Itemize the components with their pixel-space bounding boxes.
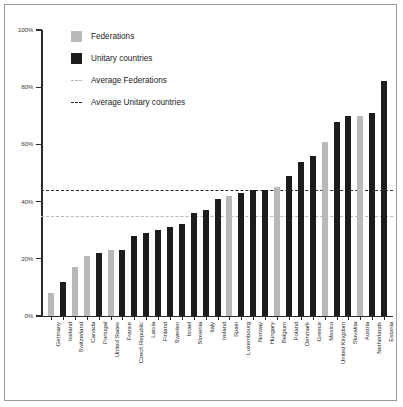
bar-canada (84, 256, 90, 316)
bar-germany (48, 293, 54, 316)
bar-united-kingdom (334, 122, 340, 316)
bar-ireland (215, 199, 221, 316)
x-axis-label: Spain (232, 322, 239, 337)
x-axis-label: Slovakia (351, 322, 358, 344)
bar-latvia (143, 233, 149, 316)
bar-czech-republic (131, 236, 137, 316)
legend-label-unitary-countries: Unitary countries (91, 54, 152, 63)
x-axis-label: Germany (54, 322, 61, 346)
x-axis-label: Israel (185, 322, 192, 336)
bar-estonia (381, 81, 387, 316)
x-axis-tick (384, 316, 385, 320)
x-axis-label: Canada (89, 322, 96, 343)
bar-norway (250, 190, 256, 316)
legend-item-average-federations: Average Federations (71, 69, 185, 91)
x-axis-label: Latvia (149, 322, 156, 338)
x-axis-label: France (125, 322, 132, 340)
x-axis-tick (360, 316, 361, 320)
legend-item-average-unitary: Average Unitary countries (71, 91, 185, 113)
bar-hungary (262, 190, 268, 316)
swatch-unitary-icon (71, 53, 82, 64)
bar-iceland (60, 282, 66, 316)
bar-poland (286, 176, 292, 316)
x-axis-label: United States (113, 322, 120, 357)
x-axis-tick (134, 316, 135, 320)
x-axis-label: Norway (256, 322, 263, 342)
y-axis-tick (36, 144, 42, 145)
x-axis-tick (51, 316, 52, 320)
bar-united-states (108, 250, 114, 316)
x-axis-tick (301, 316, 302, 320)
x-axis-tick (122, 316, 123, 320)
y-axis-tick (36, 258, 42, 259)
average-line (41, 190, 393, 191)
x-axis-label: Estonia (387, 322, 394, 342)
x-axis-label: Slovenia (196, 322, 203, 345)
bar-slovenia (191, 213, 197, 316)
y-axis-tick (36, 315, 42, 316)
x-axis-label: Denmark (303, 322, 310, 346)
bar-sweden (167, 227, 173, 316)
x-axis-tick (313, 316, 314, 320)
x-axis-label: Czech Republic (137, 322, 144, 363)
y-axis-label: 20% (5, 255, 33, 262)
x-axis-tick (158, 316, 159, 320)
x-axis-tick (218, 316, 219, 320)
bar-france (119, 250, 125, 316)
y-axis-label: 80% (5, 83, 33, 90)
x-axis-tick (75, 316, 76, 320)
x-axis-tick (253, 316, 254, 320)
x-axis-tick (241, 316, 242, 320)
x-axis-tick (289, 316, 290, 320)
y-axis-label: 40% (5, 198, 33, 205)
bar-slovakia (345, 116, 351, 316)
bar-finland (155, 230, 161, 316)
x-axis-label: Portugal (101, 322, 108, 344)
dashed-line-federations-icon (71, 80, 82, 81)
bar-greece (310, 156, 316, 316)
x-axis-label: Belgium (280, 322, 287, 343)
y-axis-label: 100% (5, 26, 33, 33)
x-axis-tick (146, 316, 147, 320)
bar-netherlands (369, 113, 375, 316)
x-axis-label: Italy (208, 322, 215, 333)
x-axis-label: Ireland (220, 322, 227, 340)
y-axis-label: 60% (5, 140, 33, 147)
x-axis-label: Netherlands (375, 322, 382, 354)
bar-belgium (274, 187, 280, 316)
x-axis-label: Finland (161, 322, 168, 341)
x-axis-label: United Kingdom (339, 322, 346, 364)
legend-item-federations: Federations (71, 25, 185, 47)
x-axis-tick (348, 316, 349, 320)
y-axis-tick (36, 201, 42, 202)
x-axis-tick (170, 316, 171, 320)
x-axis-tick (229, 316, 230, 320)
x-axis-tick (111, 316, 112, 320)
x-axis-label: Sweden (173, 322, 180, 343)
bar-israel (179, 224, 185, 316)
bar-switzerland (72, 267, 78, 316)
x-axis-label: Mexico (327, 322, 334, 341)
x-axis-tick (63, 316, 64, 320)
x-axis-label: Hungary (268, 322, 275, 344)
x-axis-tick (87, 316, 88, 320)
bar-portugal (96, 253, 102, 316)
chart-frame: Federations Unitary countries Average Fe… (4, 4, 397, 401)
legend-item-unitary-countries: Unitary countries (71, 47, 185, 69)
x-axis-label: Switzerland (77, 322, 84, 352)
chart-legend: Federations Unitary countries Average Fe… (71, 25, 185, 113)
bar-denmark (298, 162, 304, 316)
x-axis-tick (194, 316, 195, 320)
x-axis-label: Austria (363, 322, 370, 340)
bar-austria (357, 116, 363, 316)
x-axis-label: Luxembourg (244, 322, 251, 355)
x-axis-tick (325, 316, 326, 320)
y-axis-tick (36, 87, 42, 88)
x-axis-tick (99, 316, 100, 320)
x-axis-tick (265, 316, 266, 320)
x-axis-label: Poland (292, 322, 299, 340)
y-axis-label: 0% (5, 312, 33, 319)
x-axis-tick (206, 316, 207, 320)
y-axis-tick (36, 29, 42, 30)
x-axis-label: Greece (315, 322, 322, 341)
